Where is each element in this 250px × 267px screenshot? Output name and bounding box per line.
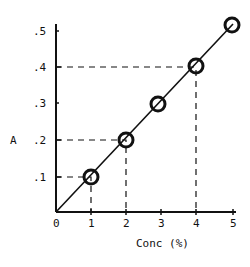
origin-label: 0: [53, 217, 60, 230]
x-tick-label: 5: [230, 217, 237, 230]
x-tick-label: 4: [193, 217, 200, 230]
y-tick-label: .3: [33, 97, 46, 110]
y-axis-title: A: [10, 134, 17, 147]
y-tick-label: .4: [33, 61, 47, 74]
x-tick-label: 2: [123, 217, 130, 230]
y-tick-label: .1: [33, 171, 46, 184]
data-line: [56, 24, 233, 212]
y-tick-label: .2: [33, 134, 46, 147]
chart: .1 .2 .3 .4 .5 0 1 2 3 4 5 A Conc (%): [0, 0, 250, 267]
x-tick-label: 3: [158, 217, 165, 230]
y-tick-label: .5: [33, 25, 46, 38]
x-axis-title: Conc (%): [136, 237, 189, 250]
x-tick-label: 1: [88, 217, 95, 230]
